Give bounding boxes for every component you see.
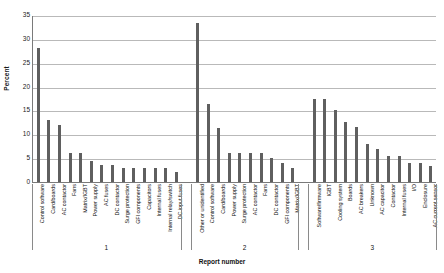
bar-slot [415, 16, 426, 182]
bar-slot [383, 16, 394, 182]
category-label-slot: Fans [255, 184, 266, 244]
bar-slot [213, 16, 224, 182]
category-label-slot: Power supply [85, 184, 96, 244]
bar-slot [75, 16, 86, 182]
bar-slot [426, 16, 437, 182]
y-axis-title: Percent [3, 44, 10, 114]
bar[interactable] [217, 128, 220, 182]
category-label-slot: Matrix/IGBT [287, 184, 298, 244]
bar[interactable] [291, 168, 294, 182]
bar-series [33, 16, 436, 182]
group-separator [436, 184, 437, 250]
y-tick-label: 15 [23, 106, 30, 113]
bar[interactable] [398, 156, 401, 182]
bar-slot [245, 16, 256, 182]
category-label-slot [181, 184, 192, 244]
y-tick-label: 5 [26, 154, 30, 161]
bar-slot [192, 16, 203, 182]
category-label-slot: GFI components [276, 184, 287, 244]
bar-chart: Percent 05101520253035 Control softwareC… [0, 0, 444, 273]
y-tick-label: 25 [23, 58, 30, 65]
bar[interactable] [196, 23, 199, 182]
category-label-slot: Control software [32, 184, 43, 244]
category-label-slot: AC capacitor [372, 184, 383, 244]
bar[interactable] [355, 127, 358, 182]
bar[interactable] [175, 172, 178, 182]
category-label-slot: AC breakers [351, 184, 362, 244]
y-axis-tick-labels: 05101520253035 [14, 14, 30, 183]
bar[interactable] [408, 163, 411, 182]
bar-slot [309, 16, 320, 182]
category-label-slot [298, 184, 309, 244]
bar[interactable] [344, 122, 347, 182]
bar-slot [97, 16, 108, 182]
bar[interactable] [69, 153, 72, 182]
bar-slot-empty [298, 16, 309, 182]
bar[interactable] [366, 144, 369, 182]
bar-slot [86, 16, 97, 182]
bar[interactable] [228, 153, 231, 182]
category-label-slot: Other or unidentified [191, 184, 202, 244]
bar[interactable] [79, 153, 82, 182]
bar[interactable] [238, 153, 241, 182]
bar[interactable] [323, 99, 326, 183]
bar[interactable] [429, 166, 432, 182]
bar[interactable] [334, 110, 337, 182]
bar[interactable] [58, 125, 61, 182]
bar[interactable] [132, 168, 135, 182]
bar[interactable] [281, 163, 284, 182]
y-tick-label: 0 [26, 178, 30, 185]
plot-area [32, 16, 436, 183]
bar-slot [319, 16, 330, 182]
category-label-slot: DC contactor [266, 184, 277, 244]
group-separator [32, 184, 33, 250]
category-label-slot: AC contactor [53, 184, 64, 244]
bar[interactable] [387, 156, 390, 182]
bar[interactable] [376, 149, 379, 182]
bar[interactable] [249, 153, 252, 182]
bar-slot [54, 16, 65, 182]
bar-slot [118, 16, 129, 182]
bar-slot [203, 16, 214, 182]
bar[interactable] [313, 99, 316, 183]
bar-slot [351, 16, 362, 182]
bar[interactable] [260, 153, 263, 182]
category-label-slot: DC input fuses [170, 184, 181, 244]
category-label-slot: Internal fuses [393, 184, 404, 244]
bar[interactable] [143, 168, 146, 182]
category-label-slot: AC fuses [96, 184, 107, 244]
group-number-label: 1 [105, 244, 109, 251]
category-label-slot: AC contactor [245, 184, 256, 244]
category-label-slot: Internal relay/switch [160, 184, 171, 244]
bar-slot [256, 16, 267, 182]
category-label-slot: Unknown [361, 184, 372, 244]
category-label-slot: Boards [340, 184, 351, 244]
category-label-slot: Card/boards [43, 184, 54, 244]
bar[interactable] [47, 120, 50, 182]
bar-slot [373, 16, 384, 182]
bar-slot [160, 16, 171, 182]
category-label-slot: IGBT [319, 184, 330, 244]
category-label-slot: AC current sensor [425, 184, 436, 244]
bar-slot [171, 16, 182, 182]
category-label-slot: Enclosure [415, 184, 426, 244]
bar[interactable] [419, 163, 422, 182]
bar-slot [394, 16, 405, 182]
category-label-slot: Capacitors [138, 184, 149, 244]
category-label-slot: I/O [404, 184, 415, 244]
bar[interactable] [111, 165, 114, 182]
bar[interactable] [100, 165, 103, 182]
bar[interactable] [90, 161, 93, 182]
bar[interactable] [164, 168, 167, 182]
bar[interactable] [154, 168, 157, 182]
bar-slot [330, 16, 341, 182]
y-tick-label: 10 [23, 130, 30, 137]
bar[interactable] [37, 48, 40, 182]
bar-slot [224, 16, 235, 182]
bar-slot-empty [182, 16, 193, 182]
bar[interactable] [122, 168, 125, 182]
bar[interactable] [207, 104, 210, 182]
bar[interactable] [270, 158, 273, 182]
x-axis-category-labels: Control softwareCard/boardsAC contactorF… [32, 184, 436, 244]
bar-slot [107, 16, 118, 182]
